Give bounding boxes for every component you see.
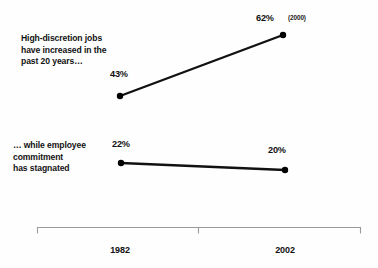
value-label-1982-high-discretion: 43% <box>110 69 128 79</box>
slopegraph-chart: High-discretion jobs have increased in t… <box>0 0 378 268</box>
annotation-high-discretion: High-discretion jobs have increased in t… <box>21 33 149 68</box>
series-line-employee-commitment <box>121 163 285 170</box>
value-label-2002-high-discretion: 62% <box>256 13 274 23</box>
data-point-2002-employee-commitment <box>282 167 288 173</box>
x-axis-tick-label-2002: 2002 <box>263 245 307 255</box>
value-label-2002-employee-commitment: 20% <box>268 145 286 155</box>
x-axis-tick-label-1982: 1982 <box>98 245 142 255</box>
annotation-year-2000-note: (2000) <box>288 14 306 21</box>
value-label-1982-employee-commitment: 22% <box>112 139 130 149</box>
data-point-2002-high-discretion <box>280 32 286 38</box>
data-point-1982-high-discretion <box>117 93 123 99</box>
